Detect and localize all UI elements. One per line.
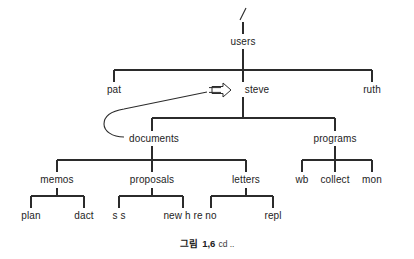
caption-trailing-text: cd ..	[218, 239, 234, 249]
root-slash-mark	[240, 8, 246, 20]
node-label-ss: s s	[112, 210, 125, 221]
node-label-dact: dact	[74, 210, 93, 221]
arrow-right-outline-icon	[209, 83, 231, 97]
node-label-no: no	[205, 210, 216, 221]
node-label-pat: pat	[107, 84, 121, 95]
annotation-curve-documents-to-steve	[104, 92, 207, 137]
caption-figure-word: 그림	[180, 238, 199, 249]
figure-canvas: / users pat steve ruth documents program…	[0, 0, 414, 259]
node-label-proposals: proposals	[130, 174, 174, 185]
figure-caption: 그림1,6cd ..	[180, 236, 235, 250]
node-label-users: users	[231, 36, 256, 47]
node-label-documents: documents	[129, 133, 179, 144]
node-label-letters: letters	[232, 174, 260, 185]
arrow-head-shape	[212, 83, 231, 97]
node-label-repl: repl	[264, 210, 281, 221]
node-label-wb: wb	[296, 174, 309, 185]
node-label-ruth: ruth	[363, 84, 381, 95]
node-label-mon: mon	[362, 174, 382, 185]
node-label-steve: steve	[245, 84, 269, 95]
node-label-newhire: new h re	[163, 210, 202, 221]
caption-figure-number: 1,6	[202, 238, 215, 249]
node-label-collect: collect	[320, 174, 349, 185]
node-label-memos: memos	[40, 174, 73, 185]
node-label-plan: plan	[21, 210, 40, 221]
node-label-programs: programs	[313, 133, 356, 144]
